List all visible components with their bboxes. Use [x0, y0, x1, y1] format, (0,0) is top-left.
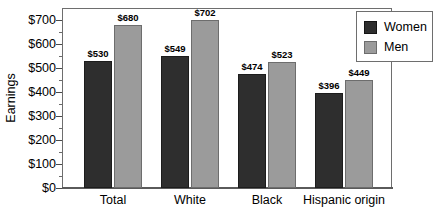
bar-women-hispanic-origin	[315, 93, 343, 188]
legend-label-men: Men	[384, 41, 408, 54]
legend: Women Men	[356, 11, 433, 62]
bar-value-label: $396	[309, 81, 349, 91]
bar-value-label: $530	[78, 49, 118, 59]
legend-item-women[interactable]: Women	[364, 19, 427, 35]
bar-value-label: $680	[108, 13, 148, 23]
bar-value-label: $474	[232, 62, 272, 72]
bar-men-hispanic-origin	[345, 80, 373, 188]
category-label: Hispanic origin	[289, 192, 399, 208]
legend-item-men[interactable]: Men	[364, 39, 408, 55]
bar-men-black	[268, 62, 296, 188]
bar-men-white	[191, 20, 219, 188]
bar-value-label: $523	[262, 50, 302, 60]
bar-chart: Earnings $0$100$200$300$400$500$600$700 …	[0, 0, 447, 216]
legend-swatch-men-icon	[364, 41, 377, 54]
bar-value-label: $702	[185, 8, 225, 18]
bar-men-total	[114, 25, 142, 188]
bar-women-black	[238, 74, 266, 188]
legend-swatch-women-icon	[364, 21, 377, 34]
bar-women-white	[161, 56, 189, 188]
bar-women-total	[84, 61, 112, 188]
bar-value-label: $449	[339, 68, 379, 78]
bar-value-label: $549	[155, 44, 195, 54]
legend-label-women: Women	[384, 21, 427, 34]
